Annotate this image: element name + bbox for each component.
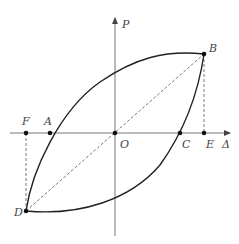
label-D: D bbox=[13, 206, 23, 219]
point-D bbox=[24, 209, 29, 214]
label-E: E bbox=[205, 138, 214, 151]
point-E bbox=[202, 131, 207, 136]
label-P: P bbox=[121, 18, 130, 31]
label-C: C bbox=[182, 138, 191, 151]
label-F: F bbox=[21, 115, 30, 128]
point-O bbox=[113, 131, 118, 136]
label-O: O bbox=[120, 138, 129, 151]
point-B bbox=[202, 52, 207, 57]
point-F bbox=[24, 131, 29, 136]
label-B: B bbox=[208, 42, 217, 55]
hysteresis-diagram: P Δ B F A O C E D bbox=[0, 0, 239, 244]
point-C bbox=[178, 131, 183, 136]
label-A: A bbox=[43, 115, 52, 128]
label-delta: Δ bbox=[221, 138, 230, 151]
point-A bbox=[48, 131, 53, 136]
